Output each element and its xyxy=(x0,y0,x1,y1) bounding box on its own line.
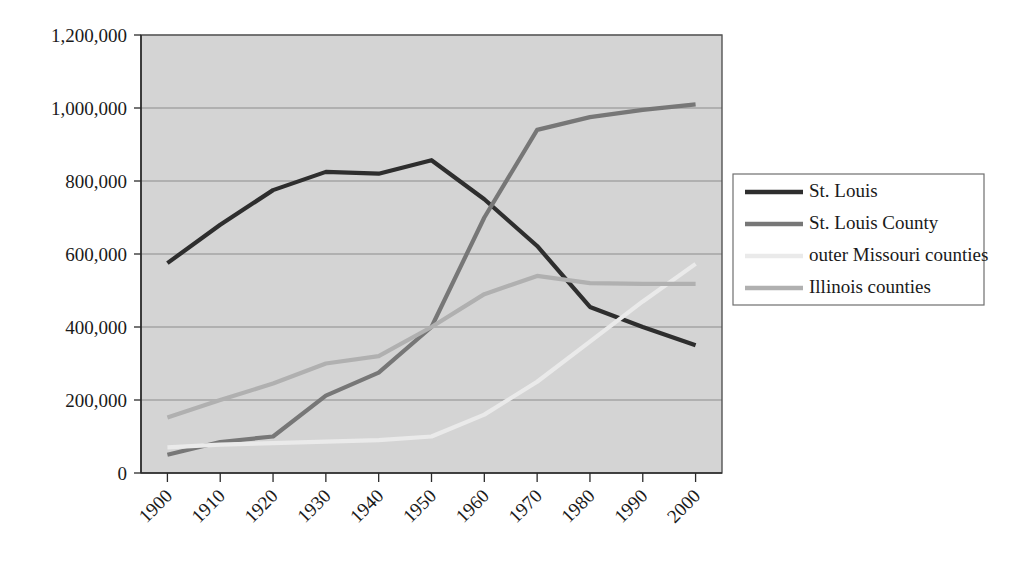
x-axis-tick-labels: 1900191019201930194019501960197019801990… xyxy=(135,485,705,527)
x-axis-ticks xyxy=(167,473,695,482)
x-tick-label-0: 1900 xyxy=(135,485,177,527)
y-tick-label-3: 600,000 xyxy=(65,244,127,265)
legend-label-1: St. Louis County xyxy=(809,212,939,233)
legend-label-3: Illinois counties xyxy=(809,276,931,297)
x-tick-label-5: 1950 xyxy=(399,485,441,527)
x-tick-label-1: 1910 xyxy=(187,485,229,527)
x-tick-label-9: 1990 xyxy=(610,485,652,527)
legend-label-2: outer Missouri counties xyxy=(809,244,988,265)
legend-label-0: St. Louis xyxy=(809,180,878,201)
x-tick-label-3: 1930 xyxy=(293,485,335,527)
y-tick-label-4: 800,000 xyxy=(65,171,127,192)
x-tick-label-4: 1940 xyxy=(346,485,388,527)
x-tick-label-7: 1970 xyxy=(504,485,546,527)
x-tick-label-10: 2000 xyxy=(663,485,705,527)
y-axis-ticks xyxy=(134,35,141,473)
y-tick-label-6: 1,200,000 xyxy=(51,25,127,46)
y-tick-label-0: 0 xyxy=(118,463,128,484)
x-tick-label-6: 1960 xyxy=(451,485,493,527)
y-axis-tick-labels: 0200,000400,000600,000800,0001,000,0001,… xyxy=(51,25,127,484)
y-tick-label-5: 1,000,000 xyxy=(51,98,127,119)
y-tick-label-1: 200,000 xyxy=(65,390,127,411)
plot-area xyxy=(141,35,722,473)
x-tick-label-8: 1980 xyxy=(557,485,599,527)
x-tick-label-2: 1920 xyxy=(240,485,282,527)
y-tick-label-2: 400,000 xyxy=(65,317,127,338)
chart-container: 0200,000400,000600,000800,0001,000,0001,… xyxy=(0,0,1018,580)
legend: St. LouisSt. Louis Countyouter Missouri … xyxy=(733,174,988,305)
population-line-chart: 0200,000400,000600,000800,0001,000,0001,… xyxy=(0,0,1018,580)
